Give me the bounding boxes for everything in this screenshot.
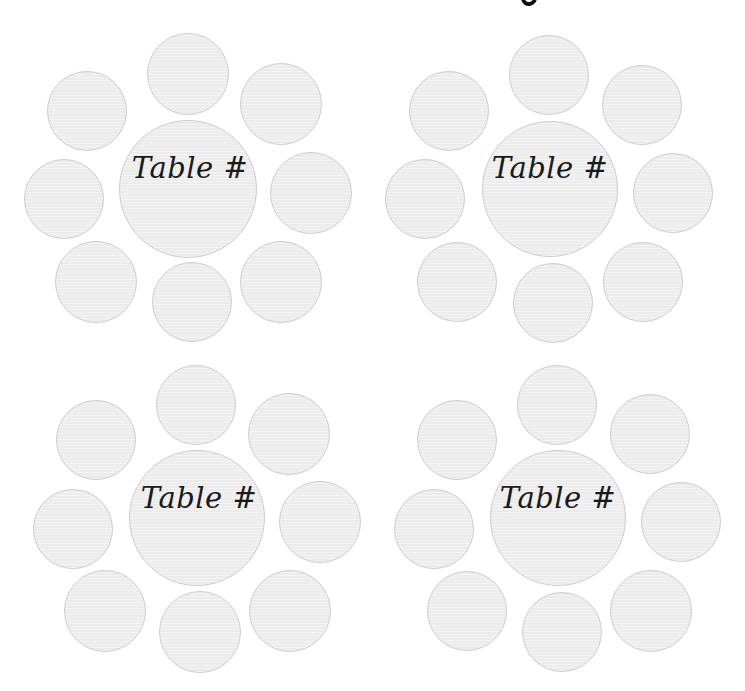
- seat-circle[interactable]: [641, 482, 721, 562]
- seat-circle[interactable]: [159, 591, 241, 673]
- seat-circle[interactable]: [517, 365, 597, 445]
- seating-chart-canvas: Table # Table # Table # Table #: [0, 0, 745, 691]
- seat-circle[interactable]: [270, 152, 352, 234]
- seat-circle[interactable]: [47, 71, 127, 151]
- seat-circle[interactable]: [633, 153, 713, 233]
- round-table[interactable]: [490, 450, 626, 586]
- seat-circle[interactable]: [248, 393, 330, 475]
- round-table[interactable]: [129, 450, 265, 586]
- round-table[interactable]: [482, 121, 618, 257]
- seat-circle[interactable]: [509, 35, 589, 115]
- seat-circle[interactable]: [385, 159, 465, 239]
- seat-circle[interactable]: [240, 63, 322, 145]
- seat-circle[interactable]: [152, 262, 232, 342]
- seat-circle[interactable]: [55, 241, 137, 323]
- seat-circle[interactable]: [522, 592, 602, 672]
- seat-circle[interactable]: [417, 400, 497, 480]
- seat-circle[interactable]: [603, 242, 683, 322]
- seat-circle[interactable]: [610, 570, 692, 652]
- seat-circle[interactable]: [240, 241, 322, 323]
- seat-circle[interactable]: [249, 570, 331, 652]
- seat-circle[interactable]: [602, 65, 682, 145]
- seat-circle[interactable]: [56, 400, 136, 480]
- seat-circle[interactable]: [427, 571, 507, 651]
- seat-circle[interactable]: [394, 489, 474, 569]
- seat-circle[interactable]: [409, 71, 489, 151]
- seat-circle[interactable]: [33, 489, 113, 569]
- title-descender-glyph: [520, 0, 538, 7]
- seat-circle[interactable]: [64, 570, 146, 652]
- seat-circle[interactable]: [279, 481, 361, 563]
- round-table[interactable]: [119, 120, 257, 258]
- seat-circle[interactable]: [147, 33, 229, 115]
- seat-circle[interactable]: [24, 159, 104, 239]
- seat-circle[interactable]: [156, 365, 236, 445]
- seating-chart-title-fragment: [0, 0, 745, 16]
- seat-circle[interactable]: [417, 242, 497, 322]
- seat-circle[interactable]: [513, 263, 593, 343]
- seat-circle[interactable]: [610, 394, 690, 474]
